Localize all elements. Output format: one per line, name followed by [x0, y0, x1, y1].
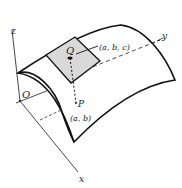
z-axis: [12, 30, 20, 101]
z-axis-label: z: [10, 26, 16, 36]
origin-label: O: [22, 89, 30, 100]
origin-marker: [19, 100, 21, 102]
point-q-label: Q: [66, 45, 74, 56]
x-axis-label: x: [79, 174, 84, 184]
surface-diagram: z O x y Q (a, b, c) P (a, b): [0, 0, 182, 188]
surface-outline: [18, 25, 175, 142]
point-p-coords: (a, b): [70, 114, 91, 123]
point-q-coords: (a, b, c): [99, 43, 130, 52]
y-axis-label: y: [161, 31, 168, 41]
point-p-marker: [75, 102, 77, 104]
point-p-label: P: [77, 99, 85, 109]
point-q-marker: [67, 56, 72, 59]
